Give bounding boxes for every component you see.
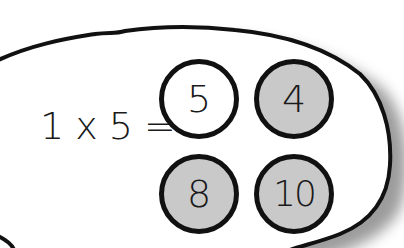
operand-b: 5 [109, 104, 134, 148]
answer-choice-label: 5 [187, 80, 211, 118]
answer-choice-10[interactable]: 10 [254, 154, 334, 234]
answer-choice-label: 10 [273, 176, 315, 212]
answer-choice-label: 4 [282, 80, 306, 118]
answer-choice-8[interactable]: 8 [159, 154, 239, 234]
math-quiz-card: 1x5= 5 4 8 10 [0, 0, 404, 248]
operator: x [75, 104, 99, 148]
operand-a: 1 [40, 104, 65, 148]
answer-choice-4[interactable]: 4 [254, 59, 334, 139]
answer-choice-5[interactable]: 5 [159, 59, 239, 139]
answer-choice-label: 8 [187, 175, 211, 213]
equation: 1x5= [40, 104, 177, 148]
